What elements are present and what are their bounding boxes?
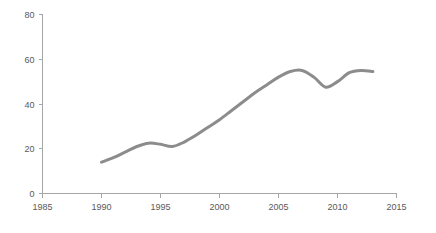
line-chart: 020406080 1985199019952000200520102015: [0, 0, 436, 233]
x-tick-label: 1985: [32, 202, 52, 212]
x-tick-label: 2015: [386, 202, 406, 212]
y-axis: 020406080: [24, 10, 42, 199]
y-tick-label: 20: [24, 144, 34, 154]
x-tick-label: 2010: [327, 202, 347, 212]
data-series-group: [102, 70, 373, 162]
x-tick-label: 2000: [209, 202, 229, 212]
x-tick-label: 1990: [91, 202, 111, 212]
x-tick-label: 2005: [268, 202, 288, 212]
y-tick-label: 0: [29, 189, 34, 199]
y-tick-label: 80: [24, 10, 34, 20]
y-tick-label: 60: [24, 55, 34, 65]
x-tick-label: 1995: [150, 202, 170, 212]
y-tick-label: 40: [24, 100, 34, 110]
chart-canvas: 020406080 1985199019952000200520102015: [0, 0, 436, 233]
data-line: [102, 70, 373, 162]
x-axis: 1985199019952000200520102015: [32, 194, 406, 212]
